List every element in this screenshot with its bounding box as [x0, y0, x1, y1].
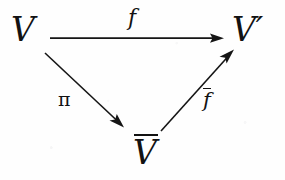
node-v-bar: V — [133, 134, 157, 169]
node-v-prime-label: V — [232, 10, 256, 49]
arrow-label-pi-text: π — [58, 88, 71, 110]
arrow-label-f-bar-group: f — [203, 88, 211, 111]
overbar-f — [203, 88, 211, 89]
arrow-label-f-text: f — [128, 5, 136, 30]
node-v-bar-group: V — [133, 134, 157, 169]
arrow-f-bar-head — [220, 50, 235, 64]
arrow-pi-shaft — [45, 53, 119, 122]
node-v-bar-label: V — [133, 133, 157, 172]
node-v-label: V — [11, 10, 35, 49]
commutative-diagram: V V′ V f π f — [0, 0, 285, 180]
arrow-f — [50, 34, 224, 43]
arrow-pi — [45, 53, 124, 128]
arrow-label-f-bar-text: f — [203, 88, 211, 112]
arrow-label-f: f — [128, 7, 136, 29]
arrow-label-f-bar: f — [203, 88, 211, 111]
arrow-label-pi: π — [58, 90, 71, 109]
prime-mark: ′ — [256, 10, 264, 49]
overbar-v — [134, 134, 158, 136]
node-v: V — [11, 13, 35, 46]
node-v-prime: V′ — [232, 13, 263, 46]
arrow-f-bar-shaft — [161, 56, 229, 131]
arrow-f-bar — [161, 50, 234, 132]
